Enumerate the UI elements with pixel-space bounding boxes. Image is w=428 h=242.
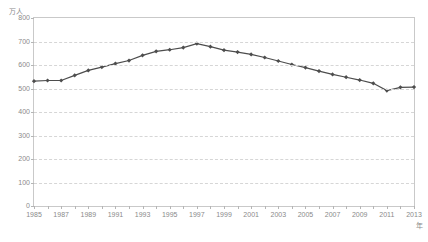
y-tick-mark (31, 112, 34, 113)
y-gridline (34, 42, 414, 43)
y-gridline (34, 136, 414, 137)
data-point-marker (208, 45, 212, 49)
plot-area: 8007006005004003002001000198519871989199… (33, 17, 415, 207)
y-gridline (34, 183, 414, 184)
chart-figure: 万人 8007006005004003002001000198519871989… (0, 0, 428, 242)
y-gridline (34, 112, 414, 113)
x-tick-mark (170, 206, 171, 209)
y-gridline (34, 159, 414, 160)
x-tick-label: 1987 (53, 211, 69, 219)
x-tick-mark (48, 206, 49, 209)
x-tick-mark (61, 206, 62, 209)
x-tick-mark (346, 206, 347, 209)
y-tick-label: 300 (18, 132, 30, 140)
x-tick-mark (373, 206, 374, 209)
data-point-marker (235, 50, 239, 54)
y-tick-label: 400 (18, 108, 30, 116)
data-point-marker (45, 78, 49, 82)
data-point-marker (344, 75, 348, 79)
y-tick-label: 100 (18, 179, 30, 187)
y-tick-mark (31, 89, 34, 90)
x-tick-label: 1995 (162, 211, 178, 219)
x-tick-label: 1989 (80, 211, 96, 219)
data-point-marker (276, 59, 280, 63)
data-point-marker (330, 72, 334, 76)
x-tick-mark (278, 206, 279, 209)
x-tick-label: 1985 (26, 211, 42, 219)
x-axis-unit-label: 年 (416, 222, 423, 230)
x-tick-mark (333, 206, 334, 209)
data-point-marker (263, 55, 267, 59)
x-tick-label: 1999 (216, 211, 232, 219)
x-tick-mark (414, 206, 415, 209)
data-point-marker (222, 48, 226, 52)
data-point-marker (154, 49, 158, 53)
y-tick-label: 600 (18, 61, 30, 69)
x-tick-mark (400, 206, 401, 209)
data-point-marker (303, 65, 307, 69)
x-tick-mark (143, 206, 144, 209)
x-tick-mark (251, 206, 252, 209)
x-tick-label: 2011 (379, 211, 394, 219)
x-tick-mark (102, 206, 103, 209)
y-tick-mark (31, 136, 34, 137)
y-tick-mark (31, 159, 34, 160)
y-tick-label: 800 (18, 14, 30, 22)
y-tick-label: 500 (18, 85, 30, 93)
y-tick-mark (31, 183, 34, 184)
x-tick-mark (305, 206, 306, 209)
x-tick-mark (387, 206, 388, 209)
x-tick-mark (319, 206, 320, 209)
data-point-marker (181, 46, 185, 50)
y-gridline (34, 89, 414, 90)
data-point-marker (317, 69, 321, 73)
data-point-marker (249, 52, 253, 56)
x-tick-mark (210, 206, 211, 209)
x-tick-mark (156, 206, 157, 209)
x-tick-mark (224, 206, 225, 209)
x-tick-mark (34, 206, 35, 209)
x-tick-label: 2013 (406, 211, 422, 219)
x-tick-mark (292, 206, 293, 209)
x-tick-mark (115, 206, 116, 209)
x-tick-mark (129, 206, 130, 209)
y-tick-label: 200 (18, 155, 30, 163)
x-tick-label: 1993 (135, 211, 151, 219)
x-tick-label: 1997 (189, 211, 205, 219)
data-point-marker (127, 58, 131, 62)
data-point-marker (371, 81, 375, 85)
x-tick-label: 2005 (298, 211, 314, 219)
y-tick-mark (31, 65, 34, 66)
data-point-marker (32, 79, 36, 83)
data-point-marker (73, 73, 77, 77)
x-tick-label: 1991 (108, 211, 124, 219)
data-point-marker (59, 78, 63, 82)
x-tick-mark (88, 206, 89, 209)
data-point-marker (168, 48, 172, 52)
x-tick-label: 2003 (270, 211, 286, 219)
y-tick-mark (31, 42, 34, 43)
x-tick-mark (360, 206, 361, 209)
x-tick-mark (183, 206, 184, 209)
y-tick-mark (31, 18, 34, 19)
x-tick-mark (265, 206, 266, 209)
x-tick-label: 2001 (243, 211, 259, 219)
x-tick-label: 2007 (325, 211, 341, 219)
x-tick-label: 2009 (352, 211, 368, 219)
x-tick-mark (197, 206, 198, 209)
data-point-marker (358, 78, 362, 82)
y-tick-label: 700 (18, 38, 30, 46)
y-gridline (34, 65, 414, 66)
data-point-marker (86, 68, 90, 72)
x-tick-mark (75, 206, 76, 209)
data-point-marker (140, 53, 144, 57)
y-tick-label: 0 (26, 202, 30, 210)
x-tick-mark (238, 206, 239, 209)
